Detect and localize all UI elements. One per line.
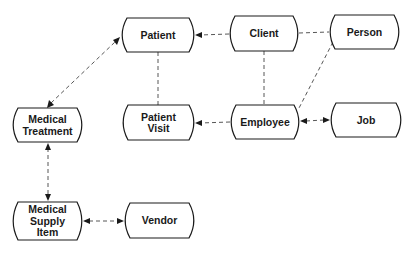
entity-person[interactable]: Person xyxy=(330,15,399,49)
entity-label: Supply xyxy=(30,215,65,227)
arrowhead-icon xyxy=(113,37,120,45)
entity-vendor[interactable]: Vendor xyxy=(125,203,194,238)
entity-job[interactable]: Job xyxy=(331,103,401,137)
entity-medical-treatment[interactable]: MedicalTreatment xyxy=(13,108,82,142)
entity-label: Medical xyxy=(28,203,67,215)
entity-label: Employee xyxy=(240,116,290,128)
nodes-layer: PatientClientPersonMedicalTreatmentPatie… xyxy=(13,15,401,240)
arrowhead-icon xyxy=(83,218,90,224)
entity-label: Person xyxy=(347,26,383,38)
arrowhead-icon xyxy=(117,218,124,224)
edge-person-client xyxy=(299,32,329,33)
edge-employee-patientvisit xyxy=(200,122,230,123)
entity-label: Job xyxy=(357,114,376,126)
entity-label: Patient xyxy=(140,29,176,41)
arrowhead-icon xyxy=(45,194,51,201)
entity-label: Visit xyxy=(148,122,170,134)
er-diagram: PatientClientPersonMedicalTreatmentPatie… xyxy=(0,0,408,254)
entity-patient[interactable]: Patient xyxy=(122,18,194,52)
arrowhead-icon xyxy=(300,118,307,124)
entity-label: Client xyxy=(249,27,279,39)
entity-label: Medical xyxy=(28,113,67,125)
edge-client-patient xyxy=(200,34,229,35)
entity-label: Patient xyxy=(141,111,177,123)
entity-label: Treatment xyxy=(22,125,73,137)
edge-employee-job xyxy=(306,120,324,121)
entity-medical-supply-item[interactable]: MedicalSupplyItem xyxy=(13,202,82,240)
arrowhead-icon xyxy=(195,32,202,38)
entity-patient-visit[interactable]: PatientVisit xyxy=(123,105,194,140)
entity-client[interactable]: Client xyxy=(230,16,298,51)
edge-medicaltreatment-patient xyxy=(51,42,115,103)
edge-person-employee xyxy=(298,42,333,110)
entity-label: Vendor xyxy=(142,214,178,226)
arrowhead-icon xyxy=(195,120,202,126)
entity-employee[interactable]: Employee xyxy=(231,105,299,139)
arrowhead-icon xyxy=(323,117,330,123)
entity-label: Item xyxy=(37,226,59,238)
arrowhead-icon xyxy=(45,143,51,150)
